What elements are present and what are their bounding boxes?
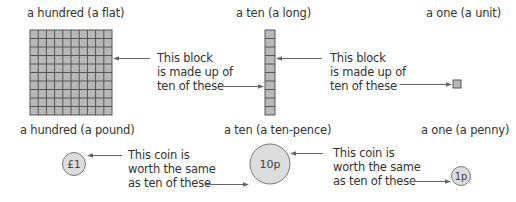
diagram-art: £1 10p 1p: [0, 0, 516, 202]
svg-text:£1: £1: [67, 158, 80, 170]
svg-text:1p: 1p: [455, 171, 468, 182]
penny-coin: 1p: [452, 167, 471, 186]
unit-block: [453, 80, 461, 88]
svg-text:10p: 10p: [260, 158, 281, 171]
flat-block: [30, 30, 112, 115]
pound-coin: £1: [63, 153, 86, 176]
tenpence-coin: 10p: [250, 144, 290, 184]
long-block: [265, 30, 275, 115]
